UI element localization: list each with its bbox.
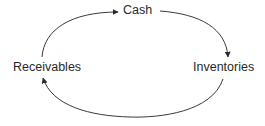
cycle-diagram: Cash Inventories Receivables	[0, 0, 265, 126]
arrow-receivables-to-cash	[42, 12, 118, 57]
node-receivables: Receivables	[13, 60, 81, 74]
node-inventories: Inventories	[193, 60, 254, 74]
node-cash: Cash	[123, 3, 152, 17]
arrow-cash-to-inventories	[160, 11, 228, 57]
arrow-inventories-to-receivables	[43, 78, 223, 117]
